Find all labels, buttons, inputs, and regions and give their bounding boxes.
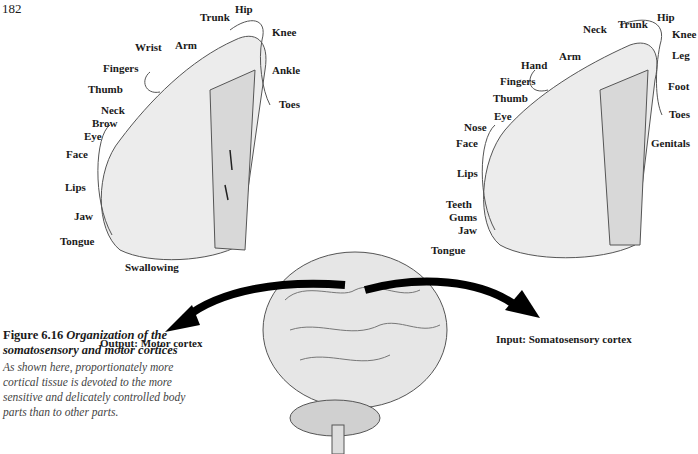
motor-label-lips: Lips xyxy=(65,181,86,193)
sensory-label-trunk: Trunk xyxy=(618,18,648,30)
sensory-label-lips: Lips xyxy=(457,167,478,179)
motor-label-ankle: Ankle xyxy=(272,64,300,76)
motor-label-jaw: Jaw xyxy=(74,210,93,222)
sensory-label-face: Face xyxy=(456,137,478,149)
sensory-label-neck: Neck xyxy=(583,23,607,35)
sensory-label-teeth: Teeth xyxy=(446,198,472,210)
sensory-label-gums: Gums xyxy=(449,211,477,223)
motor-label-brow: Brow xyxy=(92,117,117,129)
motor-label-knee: Knee xyxy=(272,26,296,38)
figure-caption-title: Figure 6.16 Organization of the somatose… xyxy=(3,328,303,358)
motor-label-eye: Eye xyxy=(84,130,102,142)
sensory-label-thumb: Thumb xyxy=(493,92,528,104)
sensory-label-knee: Knee xyxy=(672,28,696,40)
motor-label-tongue: Tongue xyxy=(60,235,94,247)
motor-label-thumb: Thumb xyxy=(88,83,123,95)
figure-title-line1: Organization of the xyxy=(66,328,167,342)
motor-cortex-homunculus xyxy=(98,21,270,260)
motor-label-hip: Hip xyxy=(235,3,253,15)
sensory-label-jaw: Jaw xyxy=(458,224,477,236)
motor-label-wrist: Wrist xyxy=(135,41,162,53)
sensory-label-leg: Leg xyxy=(672,49,690,61)
sensory-label-nose: Nose xyxy=(464,121,487,133)
sensory-label-arm: Arm xyxy=(559,50,581,62)
input-somatosensory-cortex-label: Input: Somatosensory cortex xyxy=(496,333,632,345)
figure-title-line2: somatosensory and motor cortices xyxy=(3,343,178,357)
motor-label-trunk: Trunk xyxy=(200,11,230,23)
sensory-label-hand: Hand xyxy=(521,59,547,71)
motor-label-arm: Arm xyxy=(175,39,197,51)
sensory-label-genitals: Genitals xyxy=(651,137,690,149)
figure-number: Figure 6.16 xyxy=(3,328,63,342)
sensory-label-tongue: Tongue xyxy=(431,244,465,256)
sensory-label-toes: Toes xyxy=(669,108,690,120)
motor-label-fingers: Fingers xyxy=(103,62,138,74)
sensory-label-fingers: Fingers xyxy=(500,75,535,87)
figure-caption-body: As shown here, proportionately more cort… xyxy=(3,360,203,420)
motor-label-toes: Toes xyxy=(279,98,300,110)
motor-label-neck: Neck xyxy=(101,104,125,116)
motor-label-face: Face xyxy=(66,148,88,160)
sensory-label-eye: Eye xyxy=(494,110,512,122)
sensory-label-foot: Foot xyxy=(668,80,689,92)
sensory-label-hip: Hip xyxy=(657,11,675,23)
motor-label-swallowing: Swallowing xyxy=(125,261,179,273)
